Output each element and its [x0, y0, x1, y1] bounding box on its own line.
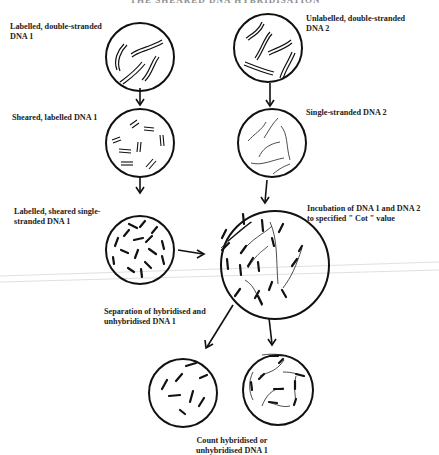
label-line: Count hybridised or	[196, 436, 268, 446]
label-count: Count hybridised or unhybridised DNA 1	[196, 436, 268, 455]
arrow-separation-hybridised	[268, 318, 276, 345]
circle-incubation	[221, 211, 329, 319]
label-sheared-labelled-dna1: Sheared, labelled DNA 1	[12, 113, 97, 123]
arrow-denature-dna1	[136, 177, 144, 193]
arrow-to-incubation-dna2	[261, 180, 269, 203]
label-line: to specified " Cot " value	[307, 214, 420, 224]
label-line: Labelled, double-stranded	[10, 22, 102, 32]
label-single-stranded-dna2: Single-stranded DNA 2	[306, 108, 387, 118]
label-line: unhybridised DNA 1	[104, 317, 206, 327]
label-line: Labelled, sheared single-	[14, 207, 101, 217]
label-unlabelled-ds-dna2: Unlabelled, double-stranded DNA 2	[306, 14, 405, 33]
label-line: DNA 1	[10, 32, 102, 42]
circle-ss-dna2	[238, 109, 306, 177]
scan-artifact	[0, 262, 439, 276]
label-incubation: Incubation of DNA 1 and DNA 2 to specifi…	[307, 204, 420, 223]
arrow-separation-unhybridised	[205, 305, 233, 348]
label-line: Incubation of DNA 1 and DNA 2	[307, 204, 420, 214]
scan-artifact	[0, 270, 439, 282]
label-labelled-ds-dna1: Labelled, double-stranded DNA 1	[10, 22, 102, 41]
label-separation: Separation of hybridised and unhybridise…	[104, 307, 206, 326]
label-line: unhybridised DNA 1	[196, 446, 268, 455]
label-line: Separation of hybridised and	[104, 307, 206, 317]
label-line: DNA 2	[306, 24, 405, 34]
label-line: stranded DNA 1	[14, 217, 101, 227]
circle-unhybridised-dna1	[149, 359, 217, 427]
circle-hybridised-dna1	[243, 354, 313, 425]
label-line: Unlabelled, double-stranded	[306, 14, 405, 24]
circle-sheared-dna1	[106, 109, 174, 177]
circle-ds-dna2	[234, 14, 302, 82]
circle-ss-dna1	[106, 216, 174, 284]
arrow-to-incubation-dna1	[178, 250, 204, 258]
label-labelled-sheared-ss-dna1: Labelled, sheared single- stranded DNA 1	[14, 207, 101, 226]
circle-ds-dna1	[106, 23, 174, 91]
arrow-denature-dna2	[266, 83, 274, 106]
